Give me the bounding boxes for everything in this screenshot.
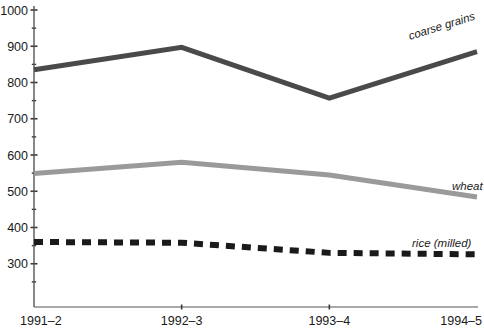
y-axis-tick-label: 400 (7, 221, 28, 235)
y-axis-tick-label: 500 (7, 185, 28, 199)
series-lines (34, 47, 477, 254)
x-axis-tick-label: 1992–3 (161, 314, 203, 328)
series-label-rice-milled: rice (milled) (412, 237, 472, 249)
y-axis-tick-labels: 1000900800700600500400300 (0, 4, 28, 272)
series-label-wheat: wheat (452, 180, 483, 192)
x-axis-tick-label: 1993–4 (308, 314, 350, 328)
y-axis-tick-label: 600 (7, 149, 28, 163)
series-labels: coarse grainswheatrice (milled) (407, 10, 483, 249)
y-axis-tick-label: 900 (7, 40, 28, 54)
y-axis-tick-label: 1000 (0, 4, 28, 18)
series-line-rice-milled (34, 242, 477, 254)
y-axis-tick-label: 300 (7, 257, 28, 271)
x-axis-tick-labels: 1991–21992–31993–41994–5 (20, 314, 482, 328)
line-chart: 1000900800700600500400300 1991–21992–319… (0, 0, 484, 331)
chart-container: 1000900800700600500400300 1991–21992–319… (0, 0, 484, 331)
x-axis-tick-label: 1991–2 (20, 314, 62, 328)
series-line-coarse-grains (34, 47, 477, 98)
x-axis-tick-label: 1994–5 (440, 314, 482, 328)
series-line-wheat (34, 162, 477, 197)
y-axis-tick-label: 800 (7, 76, 28, 90)
series-label-coarse-grains: coarse grains (407, 10, 477, 42)
y-axis-tick-label: 700 (7, 112, 28, 126)
